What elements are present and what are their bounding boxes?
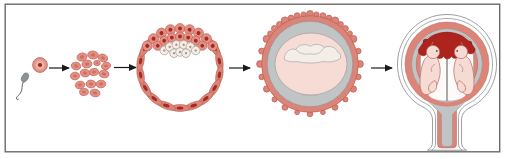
morula-cell-cluster-icon [70,51,111,98]
sperm-icon [16,72,30,100]
fetus-eye [456,50,458,52]
diagram-svg [0,0,506,159]
yolk-sac [275,33,347,95]
implanted-embryo-with-villi-icon [257,11,364,117]
twin-fetuses-in-uterus-icon [398,15,497,151]
blastocyst-icon [136,24,225,113]
sperm-and-fertilized-egg-icon [16,58,47,100]
fertilized-egg-icon [33,58,48,73]
fetus-eye [436,50,438,52]
embryo-development-diagram [0,0,506,159]
